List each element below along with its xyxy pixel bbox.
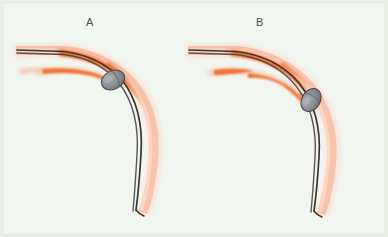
- panel-label-b: B: [256, 16, 264, 28]
- panel-label-a: A: [86, 16, 94, 28]
- figure-root: A B: [0, 0, 388, 237]
- vessel-illustration-svg: [0, 0, 388, 237]
